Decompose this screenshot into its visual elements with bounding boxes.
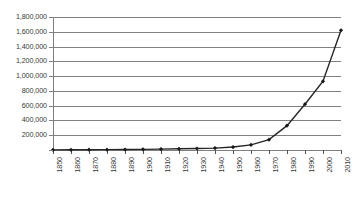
data-point-marker — [177, 147, 181, 151]
chart-container: 200,000400,000600,000800,0001,000,0001,2… — [0, 0, 356, 210]
data-point-marker — [249, 143, 253, 147]
y-axis-tick — [49, 76, 53, 77]
data-point-marker — [87, 148, 91, 152]
data-point-marker — [123, 147, 127, 151]
data-point-marker — [105, 148, 109, 152]
y-axis-tick — [49, 106, 53, 107]
data-point-marker — [159, 147, 163, 151]
y-axis-tick — [49, 150, 53, 151]
y-axis-tick — [49, 135, 53, 136]
y-axis-tick — [49, 61, 53, 62]
data-point-marker — [231, 145, 235, 149]
data-point-marker — [339, 28, 343, 32]
series-line — [53, 30, 341, 150]
data-series-layer — [0, 0, 356, 210]
y-axis-tick — [49, 120, 53, 121]
data-point-marker — [213, 146, 217, 150]
y-axis-tick — [49, 91, 53, 92]
data-point-marker — [69, 148, 73, 152]
y-axis-tick — [49, 17, 53, 18]
y-axis-tick — [49, 32, 53, 33]
series-markers — [51, 28, 343, 152]
y-axis-tick — [49, 47, 53, 48]
data-point-marker — [141, 147, 145, 151]
data-point-marker — [195, 146, 199, 150]
